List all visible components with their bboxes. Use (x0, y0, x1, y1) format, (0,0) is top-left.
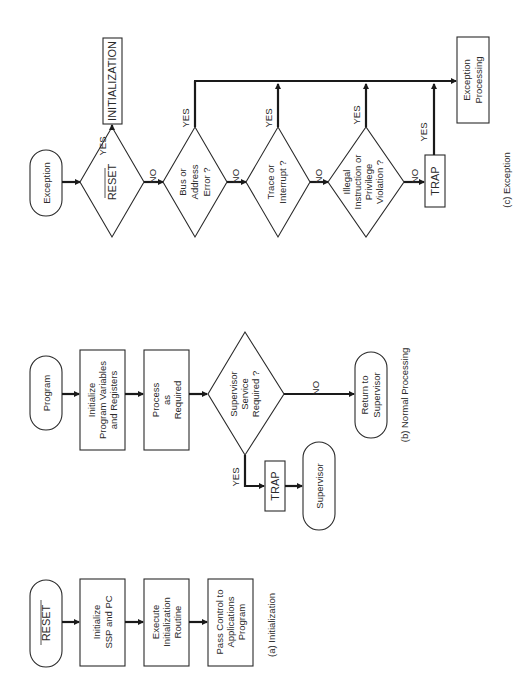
exception-trap-label: TRAP (429, 166, 441, 195)
illegal-line-4: Violation ? (374, 160, 385, 204)
illegal-no-label: NO (409, 169, 420, 183)
trace-no-label: NO (313, 169, 324, 183)
initialization-box-label: INITIALIZATION (106, 41, 118, 121)
decision-yes-label: YES (230, 467, 241, 486)
reset-start-label: RESET (40, 604, 52, 641)
return-line-1: Return to (359, 375, 370, 414)
exception-start-label: Exception (41, 162, 52, 204)
init-variables-line-2: Program Variables (97, 361, 108, 439)
decision-no-label: NO (310, 381, 321, 395)
decision-line-3: Required ? (250, 371, 261, 417)
illegal-yes-label: YES (351, 105, 362, 124)
bus-no-label: NO (230, 169, 241, 183)
decision-line-2: Service (239, 378, 250, 410)
init-ssp-line-2: SSP and PC (103, 595, 114, 648)
execute-line-2: Initialization (161, 597, 172, 647)
pass-control-line-1: Pass Control to (214, 590, 225, 655)
initialization-caption: (a) Initialization (266, 593, 277, 657)
bus-error-line-3: Error ? (201, 167, 212, 196)
normal-trap-label: TRAP (269, 471, 281, 500)
program-start-label: Program (41, 375, 52, 412)
bus-error-line-1: Bus or (177, 168, 188, 195)
illegal-line-3: Privilege (363, 164, 374, 200)
normal-processing-flow: Program Initialize Program Variables and… (30, 332, 410, 530)
reset-yes-label: YES (97, 136, 108, 155)
arrow-decision-yes (245, 455, 264, 486)
exception-processing-line-1: Exception (461, 59, 472, 101)
return-line-2: Supervisor (371, 372, 382, 417)
init-ssp-line-1: Initialize (91, 605, 102, 639)
execute-line-1: Execute (150, 605, 161, 639)
pass-control-line-2: Applications (225, 596, 236, 647)
trap-yes-label: YES (418, 122, 429, 141)
illegal-line-2: Instruction or (352, 155, 363, 210)
flowchart-canvas: Exception RESET YES INITIALIZATION NO Bu… (0, 0, 513, 696)
pass-control-line-3: Program (236, 604, 247, 641)
reset-decision-label: RESET (106, 163, 118, 200)
decision-line-1: Supervisor (228, 371, 239, 416)
exception-caption: (c) Exception (501, 152, 512, 207)
init-variables-line-3: and Registers (108, 370, 119, 429)
bus-error-line-2: Address (189, 164, 200, 199)
trace-yes-label: YES (263, 108, 274, 127)
exception-flow: Exception RESET YES INITIALIZATION NO Bu… (30, 37, 512, 237)
normal-processing-caption: (b) Normal Processing (399, 348, 410, 443)
process-line-1: Process (150, 383, 161, 418)
trace-line-2: Interrupt ? (277, 160, 288, 203)
supervisor-label: Supervisor (314, 463, 325, 508)
process-line-3: Required (172, 381, 183, 420)
process-line-2: as (161, 395, 172, 405)
init-variables-line-1: Initialize (86, 383, 97, 417)
exception-processing-line-2: Processing (473, 57, 484, 104)
trace-line-1: Trace or (265, 164, 276, 199)
bus-yes-label: YES (180, 108, 191, 127)
illegal-line-1: Illegal (341, 170, 352, 195)
reset-no-label: NO (147, 169, 158, 183)
execute-line-3: Routine (172, 606, 183, 639)
initialization-flow: RESET Initialize SSP and PC Execute Init… (30, 579, 277, 667)
